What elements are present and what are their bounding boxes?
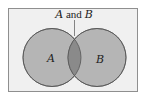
intersection-label: A and B [54, 8, 92, 21]
venn-diagram: A and B A B [0, 0, 148, 97]
set-a-label: A [46, 52, 55, 65]
set-b-label: B [95, 53, 104, 66]
